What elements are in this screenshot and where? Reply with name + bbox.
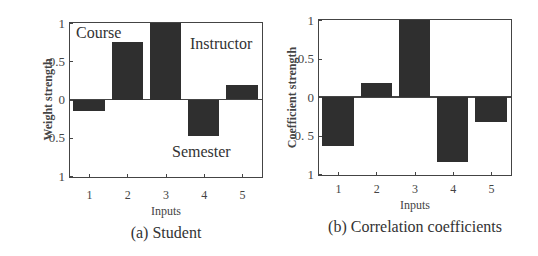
bar-1 <box>322 97 353 146</box>
x-tick-label: 1 <box>332 182 346 197</box>
bar-2 <box>361 83 392 97</box>
y-tick-mark <box>70 176 73 177</box>
y-tick-mark <box>319 174 322 175</box>
y-tick-mark <box>70 100 73 101</box>
x-tick-label: 5 <box>484 182 498 197</box>
bar-5 <box>226 85 257 100</box>
y-tick-mark <box>319 20 322 21</box>
x-tick-mark <box>415 172 416 175</box>
y-tick-mark <box>70 138 73 139</box>
y-tick-mark <box>70 23 73 24</box>
y-tick-mark <box>319 97 322 98</box>
x-tick-mark <box>491 172 492 175</box>
x-tick-label: 2 <box>121 188 135 203</box>
x-tick-mark <box>376 172 377 175</box>
bar-5 <box>475 97 506 122</box>
x-axis-label: Inputs <box>318 198 512 213</box>
bar-4 <box>437 97 468 162</box>
x-tick-mark <box>242 174 243 177</box>
bar-2 <box>112 42 143 99</box>
y-tick-label: 1 <box>43 17 65 30</box>
x-tick-label: 1 <box>83 188 97 203</box>
y-tick-label: 1 <box>292 14 314 27</box>
x-tick-mark <box>338 172 339 175</box>
x-axis-label: Inputs <box>69 204 263 219</box>
annotation-semester: Semester <box>172 143 231 161</box>
annotation-instructor: Instructor <box>190 35 252 53</box>
y-axis-label: Weight strength <box>41 30 56 170</box>
x-tick-label: 4 <box>446 182 460 197</box>
bar-3 <box>399 20 430 97</box>
x-tick-label: 5 <box>235 188 249 203</box>
chart-caption: (b) Correlation coefficients <box>298 218 532 236</box>
bar-4 <box>188 100 219 137</box>
x-tick-label: 3 <box>408 182 422 197</box>
chart-correlation-coefficients: 1234510.500. 51Coefficient strengthInput… <box>268 0 538 256</box>
x-tick-label: 2 <box>370 182 384 197</box>
y-tick-mark <box>70 61 73 62</box>
y-tick-mark <box>319 136 322 137</box>
annotation-course: Course <box>76 24 121 42</box>
x-tick-label: 4 <box>197 188 211 203</box>
x-tick-label: 3 <box>159 188 173 203</box>
chart-student: 1234510.500.51Weight strengthInputs(a) S… <box>0 0 270 256</box>
x-tick-mark <box>453 172 454 175</box>
y-axis-label: Coefficient strength <box>285 27 300 167</box>
x-tick-mark <box>89 174 90 177</box>
x-tick-mark <box>204 174 205 177</box>
plot-area <box>318 19 512 176</box>
bar-3 <box>150 23 181 100</box>
y-tick-mark <box>319 59 322 60</box>
bar-1 <box>73 100 104 111</box>
y-tick-label: 1 <box>43 170 65 183</box>
x-tick-mark <box>166 174 167 177</box>
y-tick-label: 1 <box>292 168 314 181</box>
chart-caption: (a) Student <box>49 224 283 242</box>
x-tick-mark <box>127 174 128 177</box>
